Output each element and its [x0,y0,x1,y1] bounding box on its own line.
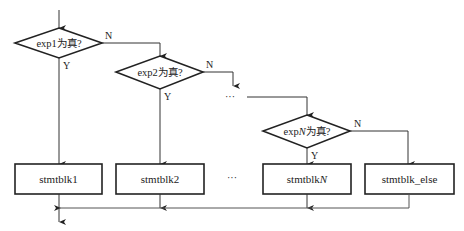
block-label: stmtblk2 [141,173,180,185]
edge-dN-no [350,131,408,164]
block-stmtblkN: stmtblkN [263,164,351,194]
decision-label: exp [284,126,299,137]
decision-exp2: exp2为真? [116,56,203,89]
decision-expN: expN为真? [263,115,350,148]
svg-text:exp1为真?: exp1为真? [36,37,81,49]
svg-text:stmtblkN: stmtblkN [287,173,328,185]
svg-text:exp2为真?: exp2为真? [137,66,182,78]
edge-label-no: N [105,30,112,41]
edge-label-yes: Y [311,150,318,161]
decision-label: exp2 [137,67,157,78]
edge-d1-no [102,43,160,56]
ellipsis-decisions: ··· [225,91,235,102]
block-label: stmtblk_else [382,173,438,185]
edge-d2-no [203,72,233,86]
edge-label-yes: Y [164,91,171,102]
svg-text:expN为真?: expN为真? [284,125,331,137]
block-stmtblk-else: stmtblk_else [365,164,454,194]
flowchart: exp1为真? N Y exp2为真? N ··· Y expN为真? N Y … [0,0,464,231]
edge-label-yes: Y [63,60,70,71]
block-label: stmtblk [287,173,321,185]
edge-to-dN [247,97,307,115]
edge-label-no: N [354,118,361,129]
block-label: stmtblk1 [39,173,78,185]
edge-label-no: N [206,59,213,70]
edge-merge [60,194,409,208]
block-stmtblk1: stmtblk1 [15,164,102,194]
decision-exp1: exp1为真? [15,28,102,58]
block-stmtblk2: stmtblk2 [116,164,204,194]
ellipsis-blocks: ··· [227,172,237,183]
decision-label: exp1 [36,38,56,49]
